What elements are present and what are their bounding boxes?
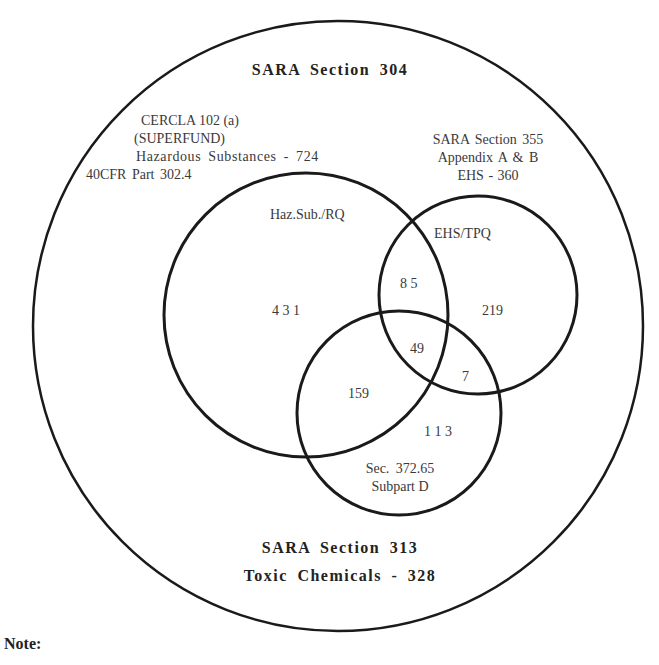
region-ehs-sec-count: 7 — [462, 369, 469, 385]
sara-313-title: SARA Section 313 — [170, 540, 510, 556]
ehs-tpq-circle-label: EHS/TPQ — [434, 226, 491, 242]
region-sec-only-count: 1 1 3 — [424, 424, 452, 440]
outer-set-title: SARA Section 304 — [180, 62, 480, 78]
haz-sub-circle-label: Haz.Sub./RQ — [270, 207, 345, 223]
haz-source-line-2: (SUPERFUND) — [134, 131, 225, 147]
region-haz-sec-count: 159 — [348, 386, 369, 402]
region-all-three-count: 49 — [410, 341, 424, 357]
toxic-chemicals-title: Toxic Chemicals - 328 — [170, 568, 510, 584]
sec-372-label-line-2: Subpart D — [300, 479, 500, 495]
haz-source-line-4: 40CFR Part 302.4 — [86, 167, 192, 183]
region-ehs-only-count: 219 — [482, 303, 503, 319]
ehs-source-line-2: Appendix A & B — [398, 150, 578, 166]
region-haz-ehs-count: 8 5 — [400, 276, 418, 292]
haz-source-line-3: Hazardous Substances - 724 — [136, 149, 319, 165]
venn-diagram-shapes — [0, 0, 659, 665]
haz-source-line-1: CERCLA 102 (a) — [141, 113, 239, 129]
ehs-source-line-3: EHS - 360 — [398, 168, 578, 184]
note-label: Note: — [4, 636, 41, 652]
ehs-source-line-1: SARA Section 355 — [398, 132, 578, 148]
region-haz-only-count: 4 3 1 — [272, 303, 300, 319]
sec-372-label-line-1: Sec. 372.65 — [300, 461, 500, 477]
